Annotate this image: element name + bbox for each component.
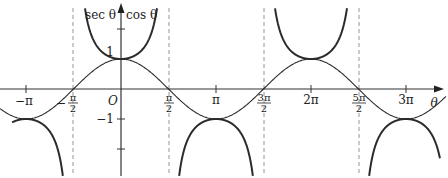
x-tick-label-half-pi: π 2 (164, 92, 174, 114)
y-tick-label-1: 1 (106, 45, 114, 59)
sec-curves (12, 8, 440, 176)
sec-cos-graph: sec θ cos θ θ O 1 −1 −π − π 2 π 2 π 3π 2… (0, 0, 448, 178)
sec-branch (369, 119, 440, 176)
x-tick-label-five-half-pi: 5π 2 (352, 92, 366, 114)
y-axis-arrow-icon (118, 3, 125, 13)
x-tick-label-three-half-pi: 3π 2 (257, 92, 271, 114)
x-tick-label-two-pi: 2π (303, 93, 319, 107)
svg-text:2: 2 (70, 103, 76, 114)
origin-label: O (108, 94, 118, 108)
svg-text:3π: 3π (258, 92, 271, 103)
y-label-sec: sec θ (85, 8, 116, 22)
x-tick-label-three-pi: 3π (398, 93, 414, 107)
x-tick-label-pi: π (212, 93, 220, 107)
sec-branch (275, 8, 347, 59)
sec-branch (179, 119, 253, 176)
svg-text:2: 2 (261, 103, 267, 114)
labels: sec θ cos θ θ O 1 −1 −π − π 2 π 2 π 3π 2… (15, 8, 438, 126)
svg-text:π: π (70, 92, 77, 103)
y-label-cos: cos θ (126, 8, 157, 22)
x-axis-label: θ (430, 96, 438, 110)
x-axis-arrow-icon (434, 86, 444, 93)
y-tick-label-neg-1: −1 (96, 112, 114, 126)
svg-text:π: π (166, 92, 173, 103)
x-tick-label-neg-pi: −π (15, 94, 33, 108)
svg-text:2: 2 (356, 103, 362, 114)
axes (0, 3, 444, 176)
sec-branch (12, 119, 63, 176)
svg-text:2: 2 (166, 103, 172, 114)
svg-text:−: − (56, 96, 66, 110)
svg-text:5π: 5π (353, 92, 366, 103)
